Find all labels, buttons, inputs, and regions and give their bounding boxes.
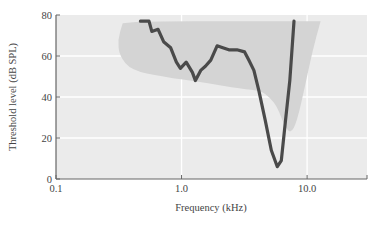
- y-tick-label: 20: [42, 133, 53, 144]
- x-axis-title: Frequency (kHz): [175, 202, 247, 214]
- y-tick-label: 80: [42, 10, 53, 21]
- y-tick-label: 40: [42, 92, 53, 103]
- x-tick-label: 1.0: [175, 183, 188, 194]
- threshold-chart: 020406080 0.11.010.0 Frequency (kHz) Thr…: [0, 0, 387, 225]
- y-tick-label: 60: [42, 51, 53, 62]
- x-tick-label: 10.0: [298, 183, 316, 194]
- y-axis-title: Threshold level (dB SPL): [7, 42, 19, 151]
- x-tick-label: 0.1: [49, 183, 62, 194]
